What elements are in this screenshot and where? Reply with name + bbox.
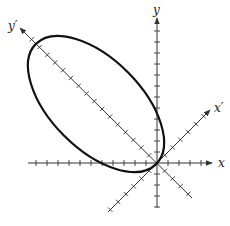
rotated-axes-ellipse-diagram: x y x′ y′ — [0, 0, 230, 226]
x-axis-label: x — [218, 156, 225, 170]
x-prime-axis-label: x′ — [214, 101, 224, 115]
y-axis-label: y — [152, 3, 160, 17]
y-prime-axis-label: y′ — [7, 19, 18, 33]
x-axis — [28, 160, 212, 166]
